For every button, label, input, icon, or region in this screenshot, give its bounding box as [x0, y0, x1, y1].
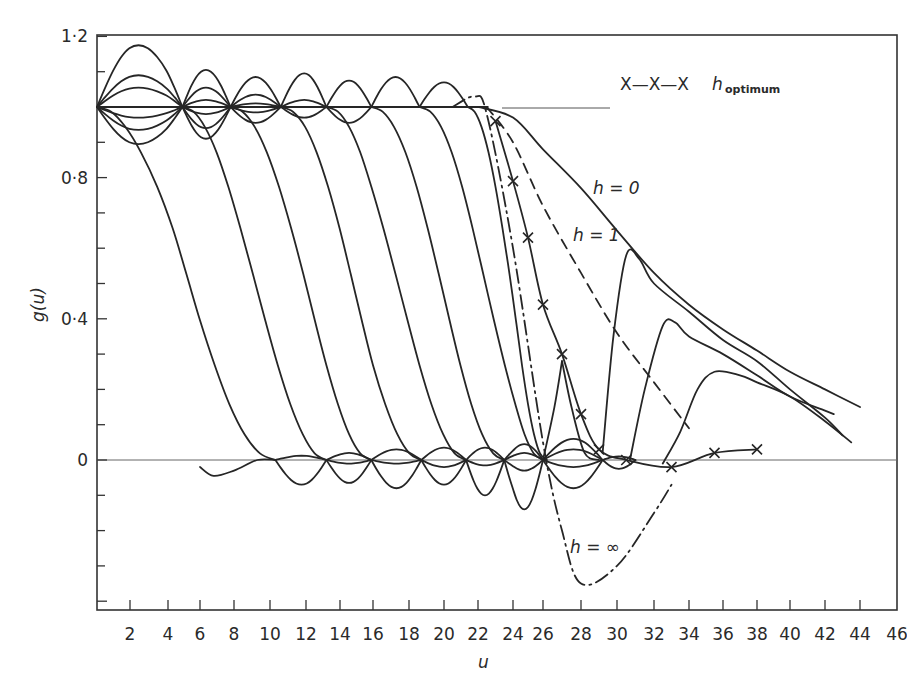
falling-curve [231, 107, 372, 460]
falling-curve [326, 107, 466, 460]
annotation-h0: h = 0 [593, 178, 640, 198]
bottom-lobe [326, 453, 371, 460]
hump-1 [603, 249, 843, 453]
top-lobe [420, 82, 468, 107]
x-tick-label: 40 [779, 624, 801, 644]
optimum-marker [508, 176, 518, 186]
annotation-hinf: h = ∞ [570, 537, 620, 557]
x-tick-label: 42 [814, 624, 836, 644]
legend: X—X—X h optimum [620, 74, 780, 96]
x-tick-label: 10 [259, 624, 281, 644]
x-tick-label: 38 [746, 624, 768, 644]
y-tick-label: 0·8 [61, 168, 88, 188]
y-axis-label: g(u) [28, 287, 48, 322]
bottom-lobe [421, 460, 466, 467]
top-lobe [182, 100, 230, 107]
bottom-lobe [326, 460, 371, 464]
bottom-lobe [504, 460, 543, 509]
x-tick-label: 20 [433, 624, 455, 644]
curves [97, 45, 860, 585]
bottom-lobe [421, 448, 466, 460]
x-axis-ticks: 2468101214161820222426283032343638404244… [125, 600, 907, 644]
series-3 [496, 121, 758, 467]
x-axis-label: u [478, 652, 489, 672]
series-1 [487, 107, 689, 428]
bottom-lobe [504, 460, 543, 471]
x-tick-label: 32 [643, 624, 665, 644]
y-tick-label: 0 [77, 450, 88, 470]
x-tick-label: 44 [849, 624, 871, 644]
top-lobe [182, 107, 230, 139]
x-tick-label: 34 [678, 624, 700, 644]
undershoot [200, 459, 275, 476]
series-0 [478, 107, 860, 407]
top-lobe [281, 100, 327, 107]
x-tick-label: 22 [467, 624, 489, 644]
legend-subscript: optimum [725, 83, 780, 96]
bottom-lobe [371, 460, 421, 464]
x-tick-label: 6 [195, 624, 206, 644]
optimum-marker [576, 409, 586, 419]
x-tick-label: 14 [329, 624, 351, 644]
x-tick-label: 8 [229, 624, 240, 644]
top-lobe [97, 75, 182, 107]
x-tick-label: 2 [125, 624, 136, 644]
top-lobe [182, 107, 230, 114]
top-lobe [371, 77, 419, 107]
bottom-lobe [466, 460, 504, 465]
legend-marker: X—X—X [620, 74, 689, 94]
x-tick-label: 28 [570, 624, 592, 644]
falling-curve [97, 107, 275, 460]
plot-frame [97, 35, 897, 610]
x-tick-label: 30 [606, 624, 628, 644]
falling-curve [281, 107, 421, 460]
falling-curve [420, 107, 544, 460]
top-lobe [326, 81, 371, 107]
x-tick-label: 4 [163, 624, 174, 644]
top-lobe [281, 73, 327, 107]
x-tick-label: 24 [502, 624, 524, 644]
x-tick-label: 46 [886, 624, 907, 644]
x-tick-label: 18 [398, 624, 420, 644]
bottom-lobe [275, 460, 326, 485]
x-tick-label: 12 [295, 624, 317, 644]
y-tick-label: 0·4 [61, 309, 88, 329]
optimum-marker [557, 349, 567, 359]
y-tick-label: 1·2 [61, 26, 88, 46]
bottom-lobe [543, 460, 603, 467]
falling-curve [371, 107, 504, 460]
bottom-lobe [371, 449, 421, 460]
optimum-marker [538, 300, 548, 310]
chart: 1·20·80·40 24681012141618202224262830323… [0, 0, 907, 685]
x-tick-label: 36 [712, 624, 734, 644]
x-tick-label: 26 [532, 624, 554, 644]
x-tick-label: 16 [362, 624, 384, 644]
legend-label: h [712, 74, 723, 94]
annotation-h1: h = 1 [573, 225, 620, 245]
top-lobe [97, 107, 182, 118]
